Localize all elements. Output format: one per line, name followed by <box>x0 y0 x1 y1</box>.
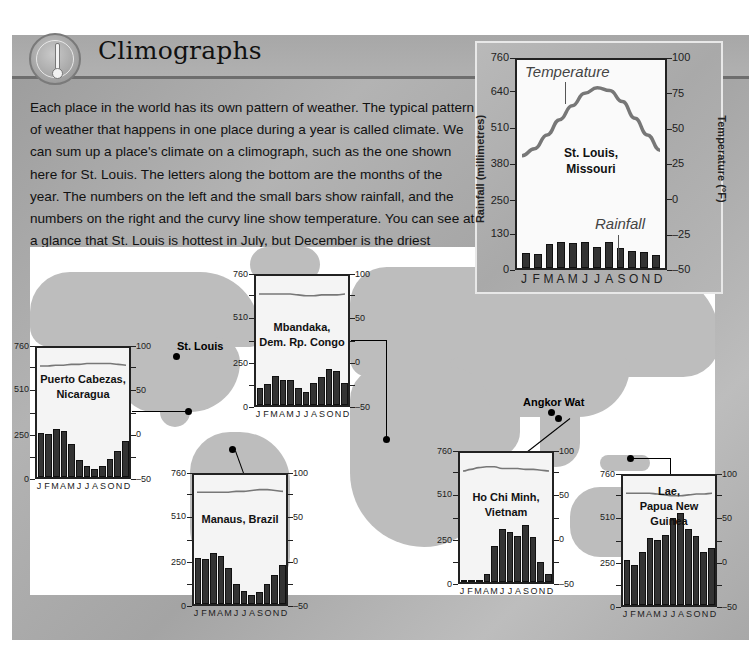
month-label: N <box>538 586 546 596</box>
climograph-mbandaka: Mbandaka,Dem. Rp. Congo0250510760–500501… <box>254 274 350 407</box>
climograph-ho-chi-minh: Ho Chi Minh,Vietnam0250510760–50050100JF… <box>458 451 554 584</box>
tick-mark <box>30 479 35 480</box>
month-label: J <box>669 609 677 619</box>
annotation-pointer <box>618 235 619 260</box>
month-label: N <box>115 481 123 491</box>
month-label: A <box>248 608 256 618</box>
tick-mark <box>616 474 621 475</box>
tick-mark <box>453 540 458 541</box>
station-name: Mbandaka,Dem. Rp. Congo <box>256 320 348 350</box>
tick-mark <box>131 413 136 414</box>
tick-mark <box>350 341 355 342</box>
tick-mark <box>288 517 293 518</box>
month-label: N <box>334 409 342 419</box>
label-angkor-wat: Angkor Wat <box>523 396 584 408</box>
temperature-tick-label: 100 <box>722 469 737 479</box>
tick-mark <box>131 367 136 368</box>
month-label: J <box>240 608 248 618</box>
rainfall-tick-label: 760 <box>233 269 248 279</box>
world-map <box>30 247 715 595</box>
month-label: S <box>318 409 326 419</box>
tick-mark <box>350 295 355 296</box>
temperature-tick-label: 0 <box>136 429 141 439</box>
tick-mark <box>667 58 672 59</box>
plot-area: St. Louis,Missouri <box>515 58 667 270</box>
station-name-line: St. Louis, <box>517 145 665 161</box>
tick-mark <box>288 584 293 585</box>
climograph-manaus: Manaus, Brazil0250510760–50050100JFMAMJJ… <box>192 473 288 606</box>
rainfall-tick-label: 510 <box>600 512 615 522</box>
month-label: M <box>67 481 75 491</box>
month-label: O <box>530 586 538 596</box>
tick-mark <box>554 540 559 541</box>
tick-mark <box>30 457 35 458</box>
temperature-tick-label: 100 <box>293 468 308 478</box>
station-name: Manaus, Brazil <box>194 512 286 527</box>
plot-area: Manaus, Brazil <box>192 473 288 606</box>
land-north-america <box>30 272 260 347</box>
tick-mark <box>187 494 192 495</box>
tick-mark <box>616 607 621 608</box>
rainfall-tick-label: 510 <box>233 312 248 322</box>
station-name-line: Nicaragua <box>37 387 129 402</box>
tick-mark <box>667 199 672 200</box>
plot-area: Lae,Papua New Guinea <box>621 474 717 607</box>
month-label: F <box>466 586 474 596</box>
temperature-tick-label: 0 <box>559 534 564 544</box>
tick-mark <box>453 451 458 452</box>
tick-mark <box>554 451 559 452</box>
station-name: Puerto Cabezas,Nicaragua <box>37 372 129 402</box>
month-label: M <box>270 409 278 419</box>
temperature-tick-label: 75 <box>672 87 684 99</box>
month-label: O <box>628 272 640 286</box>
month-label: J <box>498 586 506 596</box>
month-label: S <box>522 586 530 596</box>
tick-mark <box>453 584 458 585</box>
station-name-line: Dem. Rp. Congo <box>256 335 348 350</box>
tick-mark <box>187 540 192 541</box>
temperature-tick-label: –50 <box>293 601 308 611</box>
month-label: A <box>482 586 490 596</box>
rainfall-tick-label: 380 <box>491 157 509 169</box>
rainfall-tick-label: 0 <box>243 402 248 412</box>
leader-mbandaka-h <box>351 340 387 341</box>
month-label: M <box>567 272 579 286</box>
month-label: J <box>506 586 514 596</box>
tick-mark <box>30 367 35 368</box>
tick-mark <box>717 585 722 586</box>
month-label: J <box>75 481 83 491</box>
month-label: A <box>278 409 286 419</box>
tick-mark <box>510 164 515 165</box>
month-axis: JFMAMJJASOND <box>35 481 131 491</box>
temperature-tick-label: 0 <box>293 556 298 566</box>
station-name-line: Missouri <box>517 161 665 177</box>
tick-mark <box>187 606 192 607</box>
rainfall-tick-label: 510 <box>14 384 29 394</box>
month-label: J <box>518 272 530 286</box>
rainfall-tick-label: 760 <box>171 468 186 478</box>
tick-mark <box>667 270 672 271</box>
month-label: S <box>685 609 693 619</box>
month-label: S <box>615 272 627 286</box>
month-label: M <box>474 586 482 596</box>
month-label: D <box>342 409 350 419</box>
temperature-tick-label: 100 <box>559 446 574 456</box>
tick-mark <box>717 563 722 564</box>
temperature-axis-title: Temperature (°F) <box>716 104 728 214</box>
temperature-tick-label: 50 <box>559 490 569 500</box>
month-label: O <box>107 481 115 491</box>
rainfall-tick-label: 250 <box>233 358 248 368</box>
month-label: S <box>99 481 107 491</box>
temperature-tick-label: 50 <box>672 122 684 134</box>
rainfall-axis-title: Rainfall (millimetres) <box>474 104 486 234</box>
month-label: J <box>458 586 466 596</box>
month-label: D <box>709 609 717 619</box>
rainfall-tick-label: 760 <box>437 446 452 456</box>
station-name-line: Manaus, Brazil <box>194 512 286 527</box>
tick-mark <box>510 200 515 201</box>
rainfall-tick-label: 250 <box>437 535 452 545</box>
marker-angkor-wat <box>548 409 555 416</box>
tick-mark <box>510 58 515 59</box>
marker-ho-chi-minh <box>555 415 562 422</box>
rainfall-annotation: Rainfall <box>595 215 645 232</box>
